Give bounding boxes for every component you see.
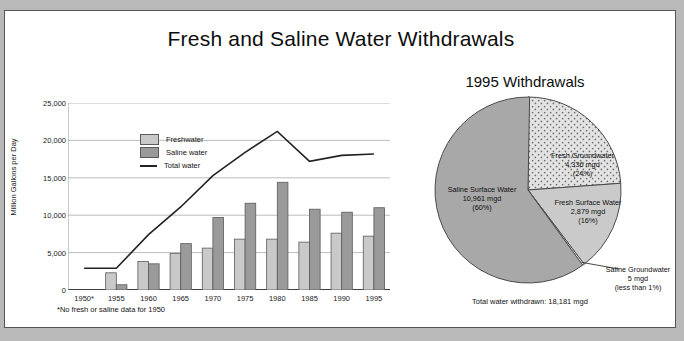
x-axis-tick: 1970 <box>205 294 222 303</box>
y-axis-tick: 25,000 <box>6 99 66 108</box>
y-axis-tick: 0 <box>6 286 66 295</box>
pie-total-caption: Total water withdrawn: 18,181 mgd <box>405 297 655 306</box>
slice-pct: (60%) <box>427 203 537 212</box>
legend-label: Saline water <box>166 148 207 157</box>
bar-chart: Million Gallons per Day FreshwaterSaline… <box>15 81 405 321</box>
x-axis-tick: 1960 <box>140 294 157 303</box>
x-axis-tick: 1950* <box>74 294 94 303</box>
legend-label: Freshwater <box>166 135 204 144</box>
legend-item: Saline water <box>140 146 207 159</box>
bar-saline-water <box>149 264 160 290</box>
y-axis-tick: 5,000 <box>6 248 66 257</box>
x-axis-tick: 1990 <box>333 294 350 303</box>
slice-value: 2,879 mgd <box>533 207 643 216</box>
x-axis-tick: 1995 <box>366 294 383 303</box>
bar-saline-water <box>342 212 353 290</box>
bar-freshwater <box>234 239 245 290</box>
slice-pct: (less than 1%) <box>593 283 683 292</box>
pie-label-saline-groundwater: Saline Groundwater 5 mgd (less than 1%) <box>593 265 683 293</box>
slice-value: 4,336 mgd <box>530 160 635 169</box>
slice-pct: (24%) <box>530 169 635 178</box>
bar-freshwater <box>170 253 181 290</box>
legend-label: Total water <box>164 161 200 170</box>
bar-legend: FreshwaterSaline waterTotal water <box>140 133 207 172</box>
x-axis-tick: 1975 <box>237 294 254 303</box>
legend-swatch-0 <box>140 134 159 145</box>
slice-value: 5 mgd <box>593 274 683 283</box>
bar-saline-water <box>245 203 256 290</box>
bar-freshwater <box>363 236 374 290</box>
line-total-water <box>84 131 374 268</box>
slice-name: Fresh Surface Water <box>533 198 643 207</box>
bar-freshwater <box>267 239 278 290</box>
bar-freshwater <box>331 233 342 290</box>
chart-frame: Fresh and Saline Water Withdrawals Milli… <box>4 10 676 328</box>
legend-swatch-2 <box>140 165 157 167</box>
pie-label-saline-surface: Saline Surface Water 10,961 mgd (60%) <box>427 185 537 213</box>
bar-freshwater <box>202 248 213 290</box>
y-axis-tick: 20,000 <box>6 136 66 145</box>
bar-freshwater <box>138 262 149 290</box>
bar-footnote: *No fresh or saline data for 1950 <box>57 305 165 314</box>
slice-name: Saline Surface Water <box>427 185 537 194</box>
screenshot-root: Fresh and Saline Water Withdrawals Milli… <box>0 0 684 341</box>
x-axis-tick: 1985 <box>301 294 318 303</box>
legend-swatch-1 <box>140 147 159 158</box>
legend-item: Freshwater <box>140 133 207 146</box>
x-axis-tick: 1980 <box>269 294 286 303</box>
bar-saline-water <box>374 208 385 290</box>
slice-name: Saline Groundwater <box>593 265 683 274</box>
bar-freshwater <box>106 273 117 290</box>
bar-freshwater <box>299 242 310 290</box>
pie-chart: 1995 Withdrawals Saline Surface Water 10… <box>405 73 681 323</box>
slice-value: 10,961 mgd <box>427 194 537 203</box>
bar-plot-area: FreshwaterSaline waterTotal water 05,000… <box>68 103 390 290</box>
bar-saline-water <box>181 244 192 290</box>
slice-name: Fresh Groundwater <box>530 151 635 160</box>
legend-item: Total water <box>140 159 207 172</box>
bar-saline-water <box>116 285 127 290</box>
pie-label-fresh-surface: Fresh Surface Water 2,879 mgd (16%) <box>533 198 643 226</box>
bar-saline-water <box>277 182 288 290</box>
y-axis-tick: 15,000 <box>6 173 66 182</box>
x-axis-tick: 1965 <box>172 294 189 303</box>
y-axis-tick: 10,000 <box>6 211 66 220</box>
pie-title: 1995 Withdrawals <box>405 73 645 90</box>
pie-label-fresh-groundwater: Fresh Groundwater 4,336 mgd (24%) <box>530 151 635 179</box>
x-axis-tick: 1955 <box>108 294 125 303</box>
slice-pct: (16%) <box>533 216 643 225</box>
bar-saline-water <box>213 217 224 290</box>
bar-saline-water <box>310 209 321 290</box>
page-title: Fresh and Saline Water Withdrawals <box>5 27 677 51</box>
